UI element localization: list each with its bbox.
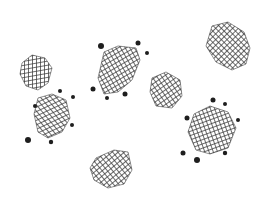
dot-marker — [181, 151, 186, 156]
dot-marker — [105, 96, 109, 100]
dot-marker — [71, 95, 75, 99]
dot-marker — [136, 41, 141, 46]
dot-marker — [194, 157, 200, 163]
dot-marker — [123, 92, 128, 97]
dot-marker — [33, 104, 37, 108]
dot-marker — [98, 43, 104, 49]
dot-marker — [223, 151, 227, 155]
dot-marker — [91, 87, 96, 92]
dot-marker — [145, 51, 149, 55]
dot-marker — [211, 98, 216, 103]
dot-marker — [223, 102, 227, 106]
dot-marker — [70, 123, 74, 127]
dot-marker — [49, 140, 53, 144]
dot-marker — [58, 89, 62, 93]
dot-marker — [236, 118, 240, 122]
crosshatch-illustration — [0, 0, 269, 206]
dot-marker — [25, 137, 31, 143]
dot-marker — [185, 116, 190, 121]
illustration-canvas — [0, 0, 269, 206]
